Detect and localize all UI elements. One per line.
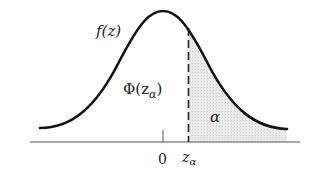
cdf-label-main: Φ(z (123, 80, 149, 98)
density-curve (40, 11, 287, 129)
normal-distribution-figure: f(z) Φ(zα) α 0 zα (0, 0, 313, 170)
tail-area-label: α (210, 108, 220, 126)
cdf-label-close: ) (157, 80, 163, 98)
tail-shaded-region (40, 11, 287, 142)
curve-label: f(z) (95, 22, 121, 40)
cdf-area-label: Φ(zα) (123, 80, 162, 101)
tick-label-zero: 0 (158, 151, 167, 167)
tick-z-sub: α (189, 156, 196, 167)
tick-label-z-alpha: zα (181, 149, 196, 167)
